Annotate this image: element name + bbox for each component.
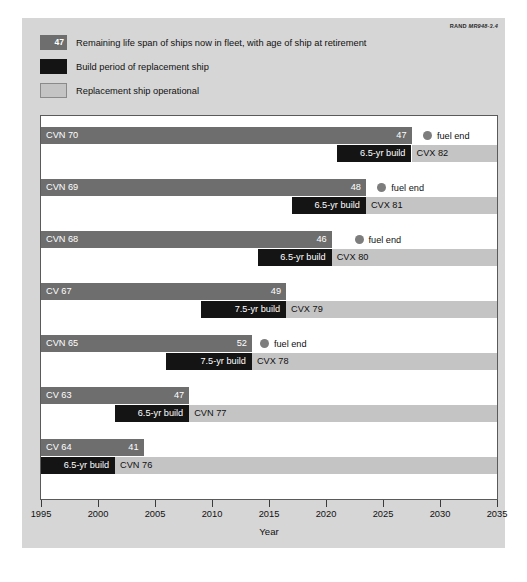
fuel-end-dot-icon	[423, 131, 432, 140]
replacement-operational-bar: CVN 77	[189, 405, 497, 422]
chart-row: CVN 7047CVX 826.5-yr buildfuel end	[41, 124, 497, 176]
ship-name-label: CVN 69	[46, 179, 78, 196]
build-period-label: 6.5-yr build	[360, 145, 405, 162]
replacement-operational-bar: CVX 80	[332, 249, 497, 266]
x-axis-tick-label: 2010	[202, 509, 223, 519]
chart-row: CVN 6846CVX 806.5-yr buildfuel end	[41, 228, 497, 280]
legend-swatch-value: 47	[55, 36, 64, 48]
chart-row: CV 6441CVN 766.5-yr build	[41, 436, 497, 488]
legend-swatch-operational	[40, 83, 67, 98]
replacement-operational-bar: CVX 78	[252, 353, 497, 370]
replacement-ship-label: CVN 76	[120, 457, 152, 474]
x-axis-tick	[269, 500, 270, 507]
fuel-end-dot-icon	[260, 339, 269, 348]
x-axis-tick	[440, 500, 441, 507]
x-axis-tick	[41, 500, 42, 507]
x-axis: Year 19952000200520102015202020252030203…	[40, 500, 498, 546]
x-axis-tick	[383, 500, 384, 507]
chart-row: CV 6749CVX 797.5-yr build	[41, 280, 497, 332]
build-period-label: 6.5-yr build	[280, 249, 325, 266]
legend-item-operational: Replacement ship operational	[40, 82, 480, 99]
fuel-end-label: fuel end	[274, 339, 307, 349]
legend-item-remaining: 47Remaining life span of ships now in fl…	[40, 34, 480, 51]
age-at-retirement-value: 41	[128, 439, 138, 456]
chart-row: CVN 6948CVX 816.5-yr buildfuel end	[41, 176, 497, 228]
build-period-bar: 6.5-yr build	[258, 249, 332, 266]
build-period-bar: 6.5-yr build	[292, 197, 366, 214]
x-axis-tick	[98, 500, 99, 507]
remaining-life-bar: CVN 6552	[41, 335, 252, 352]
fuel-end-label: fuel end	[391, 183, 424, 193]
x-axis-tick-label: 2030	[430, 509, 451, 519]
x-axis-tick-label: 2020	[316, 509, 337, 519]
rand-source-credit: RAND MR948-3.4	[450, 23, 498, 29]
legend: 47Remaining life span of ships now in fl…	[40, 34, 480, 106]
replacement-ship-label: CVX 79	[291, 301, 323, 318]
chart-row: CVN 6552CVX 787.5-yr buildfuel end	[41, 332, 497, 384]
build-period-bar: 7.5-yr build	[166, 353, 252, 370]
figure-panel: RAND MR948-3.4 47Remaining life span of …	[22, 18, 505, 548]
x-axis-title: Year	[40, 526, 498, 537]
legend-label: Build period of replacement ship	[76, 62, 209, 72]
build-period-label: 6.5-yr build	[64, 457, 109, 474]
replacement-operational-bar: CVX 79	[286, 301, 497, 318]
x-axis-tick	[212, 500, 213, 507]
replacement-operational-bar: CVN 76	[115, 457, 497, 474]
remaining-life-bar: CV 6441	[41, 439, 144, 456]
build-period-label: 7.5-yr build	[235, 301, 280, 318]
legend-item-build: Build period of replacement ship	[40, 58, 480, 75]
fuel-end-dot-icon	[355, 235, 364, 244]
x-axis-tick-label: 1995	[31, 509, 52, 519]
remaining-life-bar: CV 6749	[41, 283, 286, 300]
remaining-life-bar: CV 6347	[41, 387, 189, 404]
x-axis-tick	[497, 500, 498, 507]
build-period-label: 6.5-yr build	[314, 197, 359, 214]
x-axis-tick	[155, 500, 156, 507]
replacement-operational-bar: CVX 82	[412, 145, 498, 162]
x-axis-tick-label: 2015	[259, 509, 280, 519]
replacement-ship-label: CVX 82	[417, 145, 449, 162]
x-axis-tick-label: 2025	[373, 509, 394, 519]
ship-name-label: CV 64	[46, 439, 72, 456]
replacement-ship-label: CVX 81	[371, 197, 403, 214]
ship-name-label: CVN 68	[46, 231, 78, 248]
fuel-end-label: fuel end	[437, 131, 470, 141]
ship-name-label: CVN 70	[46, 127, 78, 144]
build-period-bar: 6.5-yr build	[41, 457, 115, 474]
age-at-retirement-value: 46	[316, 231, 326, 248]
fuel-end-marker: fuel end	[423, 127, 470, 144]
remaining-life-bar: CVN 6948	[41, 179, 366, 196]
build-period-label: 7.5-yr build	[200, 353, 245, 370]
chart-plot-area: CVN 7047CVX 826.5-yr buildfuel endCVN 69…	[40, 115, 498, 500]
age-at-retirement-value: 47	[396, 127, 406, 144]
replacement-ship-label: CVX 80	[337, 249, 369, 266]
build-period-bar: 6.5-yr build	[337, 145, 411, 162]
legend-swatch-remaining: 47	[40, 35, 67, 50]
build-period-bar: 7.5-yr build	[201, 301, 287, 318]
age-at-retirement-value: 52	[237, 335, 247, 352]
x-axis-tick	[326, 500, 327, 507]
chart-row: CV 6347CVN 776.5-yr build	[41, 384, 497, 436]
remaining-life-bar: CVN 6846	[41, 231, 332, 248]
credit-figure-id: MR948-3.4	[469, 23, 498, 29]
age-at-retirement-value: 49	[271, 283, 281, 300]
x-axis-tick-label: 2000	[88, 509, 109, 519]
fuel-end-marker: fuel end	[377, 179, 424, 196]
fuel-end-marker: fuel end	[260, 335, 307, 352]
fuel-end-label: fuel end	[369, 235, 402, 245]
credit-org: RAND	[450, 23, 467, 29]
chart-rows-container: CVN 7047CVX 826.5-yr buildfuel endCVN 69…	[41, 116, 497, 499]
age-at-retirement-value: 48	[351, 179, 361, 196]
legend-label: Replacement ship operational	[76, 86, 199, 96]
x-axis-tick-label: 2005	[145, 509, 166, 519]
fuel-end-marker: fuel end	[355, 231, 402, 248]
legend-label: Remaining life span of ships now in flee…	[76, 38, 366, 48]
ship-name-label: CV 67	[46, 283, 72, 300]
replacement-ship-label: CVN 77	[194, 405, 226, 422]
legend-swatch-build	[40, 59, 67, 74]
ship-name-label: CVN 65	[46, 335, 78, 352]
ship-name-label: CV 63	[46, 387, 72, 404]
replacement-operational-bar: CVX 81	[366, 197, 497, 214]
replacement-ship-label: CVX 78	[257, 353, 289, 370]
x-axis-tick-label: 2035	[487, 509, 508, 519]
